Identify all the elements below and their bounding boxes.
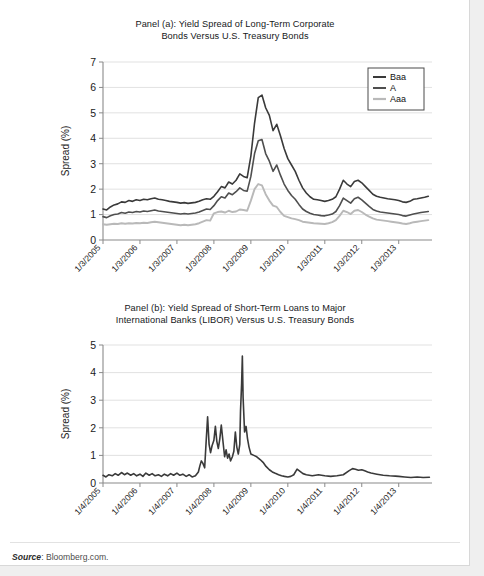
- y-tick-label: 3: [90, 158, 96, 170]
- panel-b-svg: 0123451/4/20051/4/20061/4/20071/4/20081/…: [0, 330, 470, 535]
- source-text: : Bloomberg.com.: [41, 552, 108, 562]
- x-tick-label: 1/4/2012: [331, 485, 361, 516]
- x-tick-label: 1/4/2009: [220, 485, 250, 516]
- legend-label-a: A: [390, 83, 396, 93]
- x-tick-label: 1/3/2010: [257, 242, 287, 273]
- x-tick-label: 1/3/2006: [109, 242, 139, 273]
- panel-a-title-line2: Bonds Versus U.S. Treasury Bonds: [161, 31, 308, 41]
- x-tick-label: 1/4/2010: [257, 485, 287, 516]
- source-note: Source: Bloomberg.com.: [12, 552, 109, 562]
- figure-container: Panel (a): Yield Spread of Long-Term Cor…: [0, 0, 470, 566]
- panel-a-svg: 012345671/3/20051/3/20061/3/20071/3/2008…: [0, 46, 470, 296]
- x-tick-label: 1/3/2008: [183, 242, 213, 273]
- y-tick-label: 2: [90, 422, 96, 434]
- x-tick-label: 1/3/2009: [220, 242, 250, 273]
- y-tick-label: 1: [90, 449, 96, 461]
- x-tick-label: 1/3/2005: [72, 242, 102, 273]
- source-label: Source: [12, 552, 41, 562]
- y-tick-label: 4: [90, 366, 96, 378]
- y-axis-title: Spread (%): [60, 389, 71, 440]
- x-tick-label: 1/3/2011: [295, 242, 325, 273]
- y-axis-title: Spread (%): [60, 126, 71, 177]
- panel-b-chart: 0123451/4/20051/4/20061/4/20071/4/20081/…: [0, 330, 470, 535]
- x-tick-label: 1/4/2005: [72, 485, 102, 516]
- y-tick-label: 5: [90, 339, 96, 351]
- y-tick-label: 6: [90, 81, 96, 93]
- series-line-a: [103, 140, 428, 218]
- panel-a-chart: 012345671/3/20051/3/20061/3/20071/3/2008…: [0, 46, 470, 296]
- x-tick-label: 1/4/2008: [183, 485, 213, 516]
- x-tick-label: 1/4/2013: [368, 485, 398, 516]
- source-divider: [10, 542, 460, 543]
- x-tick-label: 1/3/2007: [146, 242, 176, 273]
- y-tick-label: 2: [90, 183, 96, 195]
- panel-b-title-line1: Panel (b): Yield Spread of Short-Term Lo…: [124, 303, 345, 313]
- x-tick-label: 1/3/2012: [331, 242, 361, 273]
- x-tick-label: 1/4/2011: [295, 485, 325, 516]
- y-tick-label: 3: [90, 394, 96, 406]
- panel-b-title: Panel (b): Yield Spread of Short-Term Lo…: [55, 302, 415, 326]
- panel-a-title-line1: Panel (a): Yield Spread of Long-Term Cor…: [135, 19, 334, 29]
- legend-label-baa: Baa: [390, 72, 406, 82]
- y-tick-label: 7: [90, 56, 96, 68]
- y-tick-label: 1: [90, 208, 96, 220]
- series-line-aaa: [103, 184, 428, 225]
- panel-a-title: Panel (a): Yield Spread of Long-Term Cor…: [55, 18, 415, 42]
- series-line-libor-spread: [103, 356, 429, 477]
- panel-b-title-line2: International Banks (LIBOR) Versus U.S. …: [116, 315, 354, 325]
- x-tick-label: 1/4/2006: [109, 485, 139, 516]
- legend-label-aaa: Aaa: [390, 94, 406, 104]
- x-tick-label: 1/4/2007: [146, 485, 176, 516]
- x-tick-label: 1/3/2013: [368, 242, 398, 273]
- y-tick-label: 4: [90, 132, 96, 144]
- y-tick-label: 5: [90, 107, 96, 119]
